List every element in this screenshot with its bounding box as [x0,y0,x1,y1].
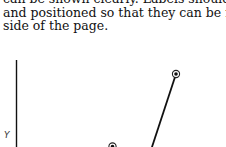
line-graph-figure [0,0,226,147]
data-point-marker-icon [172,70,179,77]
y-axis-label: Y [4,130,10,140]
document-page: can be shown clearly. Labels should be a… [0,0,226,147]
data-line-segment [151,74,176,147]
data-point-marker-icon [109,143,116,147]
